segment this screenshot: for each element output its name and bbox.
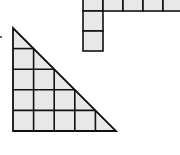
l-shape-cell [123, 0, 143, 11]
l-shape-cell [103, 0, 123, 11]
marker-dot [0, 36, 2, 38]
l-shape-cell [163, 0, 180, 11]
l-shape-cell [83, 31, 103, 51]
l-shape-cell [143, 0, 163, 11]
l-shape-grid [83, 0, 180, 51]
l-shape-cell [83, 11, 103, 31]
diagram-canvas [0, 0, 180, 155]
l-shape-cell [83, 0, 103, 11]
